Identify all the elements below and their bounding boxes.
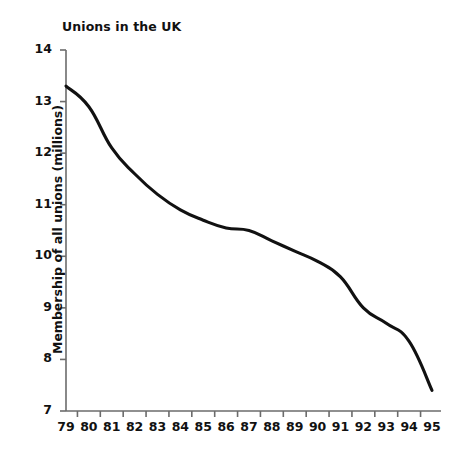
y-axis-title: Membership of all unions (millions) bbox=[50, 80, 65, 380]
y-tick-label: 10 bbox=[28, 249, 52, 262]
data-series-line bbox=[66, 86, 432, 390]
x-axis-ticks bbox=[77, 411, 420, 417]
y-tick-label: 8 bbox=[28, 352, 52, 365]
plot-area bbox=[0, 0, 460, 452]
y-tick-label: 12 bbox=[28, 146, 52, 159]
y-tick-label: 11 bbox=[28, 198, 52, 211]
chart-container: Unions in the UK Membership of all union… bbox=[0, 0, 460, 452]
y-tick-label: 13 bbox=[28, 95, 52, 108]
y-tick-label: 14 bbox=[28, 43, 52, 56]
y-tick-label: 7 bbox=[28, 404, 52, 417]
chart-title: Unions in the UK bbox=[62, 19, 181, 34]
x-tick-label: 95 bbox=[419, 421, 445, 434]
y-tick-label: 9 bbox=[28, 301, 52, 314]
